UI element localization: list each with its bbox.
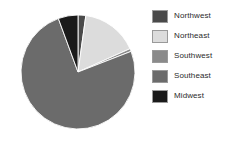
- chart-legend: Northwest Northeast Southwest Southeast …: [150, 6, 228, 114]
- legend-label-midwest: Midwest: [174, 91, 204, 101]
- legend-item-midwest[interactable]: Midwest: [150, 86, 228, 106]
- legend-item-southwest[interactable]: Southwest: [150, 46, 228, 66]
- legend-item-northwest[interactable]: Northwest: [150, 6, 228, 26]
- pie-chart-plot: [14, 8, 142, 136]
- legend-swatch-midwest: [152, 90, 168, 103]
- legend-label-southwest: Southwest: [174, 51, 212, 61]
- pie-svg: [14, 8, 142, 136]
- legend-swatch-southeast: [152, 70, 168, 83]
- legend-swatch-southwest: [152, 50, 168, 63]
- legend-item-southeast[interactable]: Southeast: [150, 66, 228, 86]
- legend-label-northeast: Northeast: [174, 31, 210, 41]
- legend-swatch-northeast: [152, 30, 168, 43]
- pie-chart-figure: Northwest Northeast Southwest Southeast …: [0, 0, 228, 141]
- legend-label-northwest: Northwest: [174, 11, 211, 21]
- legend-item-northeast[interactable]: Northeast: [150, 26, 228, 46]
- legend-swatch-northwest: [152, 10, 168, 23]
- legend-label-southeast: Southeast: [174, 71, 211, 81]
- pie-slice-group: [21, 15, 135, 129]
